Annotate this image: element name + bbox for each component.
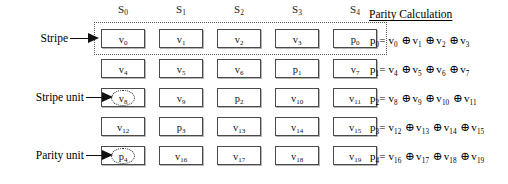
parity-term-subscript: 2	[442, 41, 446, 49]
callout-arrow-line-stripe-unit	[86, 97, 102, 98]
parity-term-subscript: 14	[449, 128, 456, 136]
parity-equation-lhs: p	[370, 34, 376, 46]
parity-term: v	[460, 34, 466, 46]
xor-operator-icon: ⊕	[448, 34, 460, 46]
parity-equation-lhs-subscript: 3	[376, 128, 380, 136]
parity-term-subscript: 9	[418, 99, 422, 107]
parity-equation-p2: p2= v8 ⊕v9 ⊕v10 ⊕v11	[370, 91, 477, 107]
callout-label-stripe: Stripe	[22, 31, 68, 45]
xor-operator-icon: ⊕	[432, 150, 444, 162]
parity-term-subscript: 15	[477, 128, 484, 136]
parity-equation-lhs-subscript: 2	[376, 99, 380, 107]
grid-cell-subscript: 0	[124, 39, 128, 47]
grid-cell-subscript: 2	[240, 98, 244, 106]
grid-cell-v12[interactable]: v12	[101, 117, 145, 136]
xor-operator-icon: ⊕	[452, 92, 464, 104]
parity-equation-lhs: p	[370, 92, 376, 104]
parity-term: v	[416, 150, 422, 162]
grid-cell-subscript: 8	[124, 98, 128, 106]
grid-cell-p2[interactable]: p2	[217, 88, 261, 107]
column-header-subscript: 1	[182, 8, 186, 17]
grid-cell-subscript: 9	[182, 98, 186, 106]
grid-cell-subscript: 19	[354, 156, 361, 164]
grid-cell-v5[interactable]: v5	[159, 59, 203, 78]
xor-operator-icon: ⊕	[425, 34, 437, 46]
xor-operator-icon: ⊕	[401, 63, 413, 75]
parity-term-subscript: 7	[466, 70, 470, 78]
grid-cell-subscript: 6	[240, 69, 244, 77]
grid-cell-subscript: 2	[240, 39, 244, 47]
parity-term-subscript: 13	[422, 128, 429, 136]
xor-operator-icon: ⊕	[460, 121, 472, 133]
grid-cell-p3[interactable]: p3	[159, 117, 203, 136]
column-header-s3: S3	[275, 3, 319, 17]
parity-term-subscript: 19	[477, 157, 484, 165]
grid-cell-v10[interactable]: v10	[275, 88, 319, 107]
parity-term-subscript: 3	[466, 41, 470, 49]
grid-cell-v0[interactable]: v0	[101, 29, 145, 48]
grid-cell-v14[interactable]: v14	[275, 117, 319, 136]
xor-operator-icon: ⊕	[432, 121, 444, 133]
xor-operator-icon: ⊕	[401, 34, 413, 46]
grid-cell-v17[interactable]: v17	[217, 146, 261, 165]
grid-cell-subscript: 1	[182, 39, 186, 47]
grid-cell-subscript: 11	[354, 98, 361, 106]
grid-cell-subscript: 16	[180, 156, 187, 164]
grid-cell-subscript: 10	[296, 98, 303, 106]
grid-cell-v6[interactable]: v6	[217, 59, 261, 78]
callout-arrow-head-stripe	[88, 33, 99, 43]
parity-equation-lhs-subscript: 4	[376, 157, 380, 165]
grid-cell-subscript: 12	[122, 127, 129, 135]
parity-term-subscript: 4	[394, 70, 398, 78]
parity-panel-title: Parity Calculation	[369, 7, 452, 21]
parity-equation-p1: p1= v4 ⊕v5 ⊕v6 ⊕v7	[370, 62, 470, 78]
grid-cell-v3[interactable]: v3	[275, 29, 319, 48]
parity-term-subscript: 8	[394, 99, 398, 107]
parity-equation-lhs-subscript: 1	[376, 70, 380, 78]
grid-cell-v16[interactable]: v16	[159, 146, 203, 165]
column-header-subscript: 3	[298, 8, 302, 17]
grid-cell-subscript: 3	[298, 39, 302, 47]
grid-cell-v9[interactable]: v9	[159, 88, 203, 107]
grid-cell-v18[interactable]: v18	[275, 146, 319, 165]
xor-operator-icon: ⊕	[404, 150, 416, 162]
parity-term-subscript: 12	[394, 128, 401, 136]
grid-cell-v2[interactable]: v2	[217, 29, 261, 48]
grid-cell-subscript: 4	[124, 156, 128, 164]
column-header-s0: S0	[101, 3, 145, 17]
grid-cell-subscript: 14	[296, 127, 303, 135]
grid-cell-subscript: 0	[356, 39, 360, 47]
column-header-subscript: 4	[356, 8, 360, 17]
column-header-s1: S1	[159, 3, 203, 17]
grid-cell-v13[interactable]: v13	[217, 117, 261, 136]
parity-equation-lhs-subscript: 0	[376, 41, 380, 49]
parity-term: v	[464, 92, 470, 104]
parity-term-subscript: 17	[422, 157, 429, 165]
parity-equation-p0: p0= v0 ⊕v1 ⊕v2 ⊕v3	[370, 33, 470, 49]
grid-cell-subscript: 5	[182, 69, 186, 77]
parity-term: v	[416, 121, 422, 133]
xor-operator-icon: ⊕	[425, 63, 437, 75]
callout-arrow-line-stripe	[70, 38, 88, 39]
grid-cell-subscript: 15	[354, 127, 361, 135]
grid-cell-subscript: 13	[238, 127, 245, 135]
figure-raid-stripe-diagram: S0S1S2S3S4v0v1v2v3p0v4v5v6p1v7v8v9p2v10v…	[0, 0, 508, 184]
grid-cell-p1[interactable]: p1	[275, 59, 319, 78]
grid-cell-v1[interactable]: v1	[159, 29, 203, 48]
parity-term-subscript: 16	[394, 157, 401, 165]
parity-term-subscript: 11	[470, 99, 477, 107]
grid-cell-subscript: 17	[238, 156, 245, 164]
callout-label-stripe-unit: Stripe unit	[12, 90, 84, 104]
xor-operator-icon: ⊕	[460, 150, 472, 162]
grid-cell-v4[interactable]: v4	[101, 59, 145, 78]
xor-operator-icon: ⊕	[404, 121, 416, 133]
parity-term-subscript: 6	[442, 70, 446, 78]
grid-cell-subscript: 3	[182, 127, 186, 135]
callout-arrow-head-parity-unit	[102, 150, 113, 160]
callout-label-parity-unit: Parity unit	[10, 148, 84, 162]
grid-cell-subscript: 4	[124, 69, 128, 77]
parity-term-subscript: 1	[418, 41, 422, 49]
parity-term-subscript: 18	[449, 157, 456, 165]
grid-cell-subscript: 1	[298, 69, 302, 77]
callout-arrow-line-parity-unit	[86, 155, 102, 156]
